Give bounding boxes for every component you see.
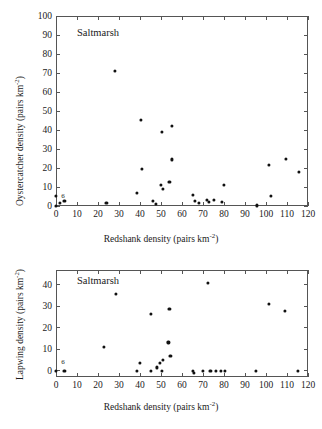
x-tick [266,202,267,206]
x-tick-top [77,16,78,20]
x-tick [203,373,204,377]
x-tick-top [140,270,141,274]
x-tick [77,202,78,206]
y-axis-title-text-bottom: Lapwing density (pairs km [15,278,25,380]
x-tick-label: 30 [114,380,124,390]
y-tick [56,130,60,131]
y-tick [56,111,60,112]
y-tick-label: 30 [26,144,52,154]
x-tick-label: 40 [135,209,145,219]
x-tick-label: 80 [219,380,229,390]
y-tick-label: 70 [26,68,52,78]
x-tick-top [245,16,246,20]
y-tick [56,16,60,17]
x-tick [98,202,99,206]
x-tick-label: 0 [54,209,59,219]
x-tick [119,202,120,206]
x-tick-top [203,270,204,274]
y-tick-label: 10 [26,344,52,354]
x-tick [182,202,183,206]
x-tick-label: 120 [301,380,315,390]
y-tick [56,168,60,169]
y-tick-label: 100 [26,11,52,21]
y-tick-right [304,284,308,285]
x-tick-label: 90 [240,209,250,219]
x-tick-top [119,16,120,20]
y-tick-right [304,73,308,74]
x-tick-top [161,16,162,20]
x-tick-top [308,16,309,20]
y-tick-right [304,16,308,17]
x-tick [182,373,183,377]
y-tick-label: 60 [26,87,52,97]
x-tick-top [245,270,246,274]
x-tick [287,202,288,206]
data-point [255,204,258,207]
x-tick-label: 20 [93,209,103,219]
y-tick-label: 40 [26,125,52,135]
x-tick [161,373,162,377]
y-axis-title-sup-top: -2 [13,79,20,85]
y-axis-title-sup-bottom: -2 [13,272,20,278]
x-tick-top [224,270,225,274]
y-tick-right [304,54,308,55]
y-tick-label: 0 [26,201,52,211]
y-tick-right [304,130,308,131]
y-tick-right [304,327,308,328]
x-tick-top [182,270,183,274]
x-axis-title-redshank-bottom: Redshank density (pairs km-2) [0,400,322,412]
y-tick [56,349,60,350]
y-tick-label: 20 [26,323,52,333]
y-tick [56,92,60,93]
plot-area-lapwing [56,270,308,377]
x-tick-top [119,270,120,274]
y-tick-label: 30 [26,301,52,311]
x-tick-top [77,270,78,274]
panel-oystercatcher: Saltmarsh 6 Oystercatcher density (pairs… [0,0,322,250]
y-tick [56,284,60,285]
x-tick-label: 60 [177,209,187,219]
x-tick [245,202,246,206]
x-axis-title-tail-bottom: ) [215,402,218,412]
y-tick [56,306,60,307]
overlap-count-label-bottom: 6 [61,358,65,366]
x-tick-top [308,270,309,274]
x-tick-top [224,16,225,20]
x-tick [161,202,162,206]
x-axis-title-text-bottom: Redshank density (pairs km [104,402,210,412]
x-tick-top [56,270,57,274]
panel-annotation-saltmarsh-bottom: Saltmarsh [77,275,119,286]
plot-area-oystercatcher [56,16,308,206]
x-tick-top [56,16,57,20]
y-tick-label: 50 [26,106,52,116]
x-tick-label: 70 [198,209,208,219]
x-tick [224,373,225,377]
x-tick-label: 100 [259,380,273,390]
x-tick-top [98,270,99,274]
y-axis-title-text-top: Oystercatcher density (pairs km [15,85,25,206]
y-axis-title-tail-top: ) [15,76,25,79]
y-tick-label: 10 [26,182,52,192]
x-tick-top [287,270,288,274]
x-tick [287,373,288,377]
y-tick [56,149,60,150]
x-tick [56,373,57,377]
x-tick-label: 110 [280,209,294,219]
y-tick-right [304,370,308,371]
y-tick-right [304,349,308,350]
y-axis-title-tail-bottom: ) [15,269,25,272]
y-tick-right [304,149,308,150]
x-axis-title-text-top: Redshank density (pairs km [104,234,210,244]
x-tick-top [203,16,204,20]
y-tick-label: 40 [26,280,52,290]
panel-annotation-saltmarsh-top: Saltmarsh [77,27,119,38]
data-point [54,204,57,207]
x-tick [245,373,246,377]
x-tick-label: 50 [156,380,166,390]
x-tick [203,202,204,206]
y-tick-right [304,168,308,169]
y-tick [56,327,60,328]
x-tick-label: 10 [72,209,82,219]
x-tick [266,373,267,377]
x-tick-label: 100 [259,209,273,219]
